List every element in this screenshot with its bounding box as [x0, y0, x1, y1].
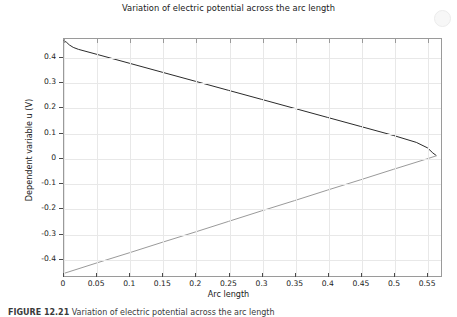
data-line-lower-branch [64, 156, 436, 273]
x-tick-mark-top [64, 39, 65, 43]
figure-container: Variation of electric potential across t… [0, 0, 457, 317]
gridline-horizontal [64, 108, 441, 109]
gridline-vertical [329, 39, 330, 276]
x-tick-mark [63, 273, 64, 277]
gridline-vertical [97, 39, 98, 276]
x-tick-mark [262, 273, 263, 277]
gridline-horizontal [64, 134, 441, 135]
gridline-horizontal [64, 209, 441, 210]
gridline-vertical [130, 39, 131, 276]
x-tick-mark-top [97, 39, 98, 43]
x-tick-mark [295, 273, 296, 277]
y-tick-mark [59, 57, 63, 58]
y-tick-label: -0.2 [16, 203, 56, 212]
x-tick-mark-top [296, 39, 297, 43]
x-tick-label: 0.55 [407, 279, 447, 288]
y-tick-label: 0 [16, 153, 56, 162]
y-tick-label: 0.2 [16, 102, 56, 111]
chart-title: Variation of electric potential across t… [0, 3, 457, 13]
x-tick-mark [229, 273, 230, 277]
x-tick-mark [129, 273, 130, 277]
y-tick-mark [59, 259, 63, 260]
x-tick-mark [195, 273, 196, 277]
y-tick-mark [59, 107, 63, 108]
gridline-horizontal [64, 235, 441, 236]
gridline-horizontal [64, 58, 441, 59]
x-tick-mark [427, 273, 428, 277]
gridline-vertical [196, 39, 197, 276]
y-tick-mark [59, 158, 63, 159]
plot-area [63, 38, 442, 277]
x-tick-mark [96, 273, 97, 277]
gridline-vertical [163, 39, 164, 276]
caption-text: Variation of electric potential across t… [72, 308, 275, 317]
x-tick-mark [328, 273, 329, 277]
gridline-vertical [296, 39, 297, 276]
gridline-horizontal [64, 83, 441, 84]
y-tick-label: 0.1 [16, 128, 56, 137]
gridline-vertical [395, 39, 396, 276]
gridline-vertical [263, 39, 264, 276]
y-tick-label: -0.4 [16, 254, 56, 263]
x-tick-mark-top [362, 39, 363, 43]
x-tick-mark-top [163, 39, 164, 43]
gridline-horizontal [64, 184, 441, 185]
y-tick-label: 0.4 [16, 52, 56, 61]
y-tick-label: 0.3 [16, 77, 56, 86]
y-axis-title: Dependent variable u (V) [24, 60, 34, 240]
data-series-svg [64, 39, 441, 276]
figure-caption: FIGURE 12.21 Variation of electric poten… [8, 308, 453, 317]
y-tick-mark [59, 133, 63, 134]
x-axis-title: Arc length [0, 289, 457, 299]
x-tick-mark-top [428, 39, 429, 43]
gridline-horizontal [64, 260, 441, 261]
x-tick-mark [162, 273, 163, 277]
x-tick-mark-top [329, 39, 330, 43]
x-tick-mark-top [263, 39, 264, 43]
y-tick-mark [59, 234, 63, 235]
x-tick-mark-top [230, 39, 231, 43]
y-tick-label: -0.1 [16, 178, 56, 187]
gridline-vertical [230, 39, 231, 276]
y-tick-label: -0.3 [16, 229, 56, 238]
x-tick-mark [361, 273, 362, 277]
x-tick-mark-top [196, 39, 197, 43]
x-tick-mark [394, 273, 395, 277]
y-tick-mark [59, 82, 63, 83]
x-tick-mark-top [130, 39, 131, 43]
gridline-vertical [64, 39, 65, 276]
gridline-horizontal [64, 159, 441, 160]
x-tick-mark-top [395, 39, 396, 43]
caption-label: FIGURE 12.21 [8, 308, 69, 317]
gridline-vertical [362, 39, 363, 276]
y-tick-mark [59, 208, 63, 209]
y-tick-mark [59, 183, 63, 184]
gridline-vertical [428, 39, 429, 276]
